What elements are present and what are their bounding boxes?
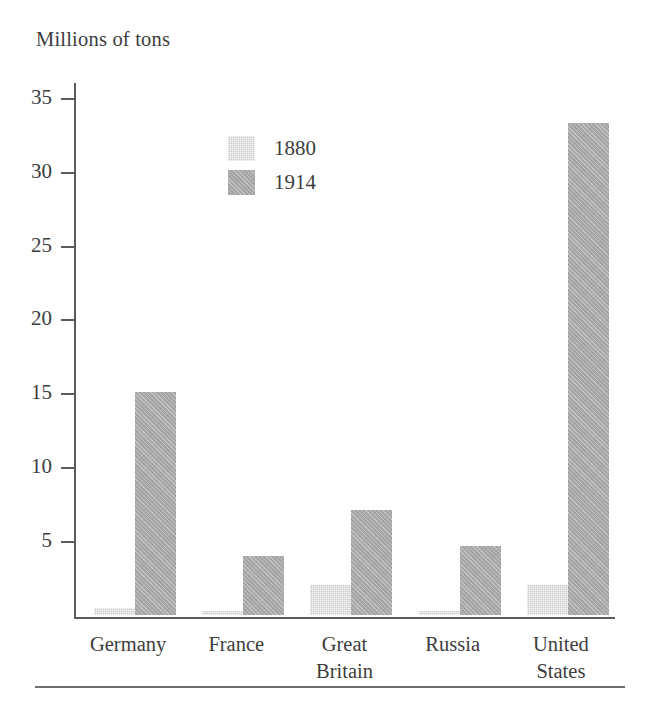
y-axis-tick: 5	[61, 541, 75, 543]
bar-1880-united-states	[527, 585, 568, 615]
bar-1914-france	[243, 556, 284, 615]
y-axis-tick: 15	[61, 393, 75, 395]
y-axis-tick-label: 10	[31, 454, 52, 478]
x-axis-line	[74, 617, 615, 619]
legend-label-1914: 1914	[274, 167, 316, 197]
bar-1914-russia	[460, 546, 501, 615]
legend-label-1880: 1880	[274, 133, 316, 163]
x-axis-label-united-states: United States	[507, 631, 615, 685]
y-axis-tick: 10	[61, 467, 75, 469]
y-axis-tick-label: 15	[31, 380, 52, 404]
y-axis-tick-label: 20	[31, 306, 52, 330]
y-axis-tick: 20	[61, 319, 75, 321]
x-axis-label-russia: Russia	[399, 631, 507, 658]
y-axis-line	[74, 83, 76, 619]
x-axis-label-germany: Germany	[74, 631, 182, 658]
chart-figure: Millions of tons 5101520253035 GermanyFr…	[0, 0, 647, 709]
y-axis-tick: 35	[61, 98, 75, 100]
bar-1880-germany	[94, 608, 135, 615]
y-axis-tick-label: 5	[42, 528, 53, 552]
bar-1880-france	[202, 611, 243, 615]
chart-title: Millions of tons	[36, 28, 170, 51]
footer-divider	[35, 686, 625, 688]
y-axis-tick-label: 30	[31, 159, 52, 183]
bar-1914-great-britain	[351, 510, 392, 615]
legend-swatch-1880	[228, 136, 255, 161]
plot-area: 5101520253035 GermanyFranceGreat Britain…	[74, 83, 615, 617]
y-axis-tick-label: 25	[31, 233, 52, 257]
x-axis-label-france: France	[182, 631, 290, 658]
bar-1880-russia	[419, 611, 460, 615]
bar-1880-great-britain	[310, 585, 351, 615]
y-axis-tick: 25	[61, 246, 75, 248]
bar-1914-germany	[135, 392, 176, 615]
bar-1914-united-states	[568, 123, 609, 615]
y-axis-tick: 30	[61, 172, 75, 174]
x-axis-label-great-britain: Great Britain	[290, 631, 398, 685]
y-axis-tick-label: 35	[31, 85, 52, 109]
legend-swatch-1914	[228, 170, 255, 195]
